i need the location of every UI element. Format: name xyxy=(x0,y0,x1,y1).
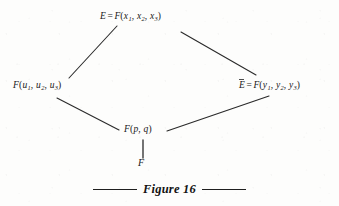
node-left-sub-2: 2 xyxy=(41,84,44,91)
lattice-node-left: F(u1, u2, u3) xyxy=(13,80,62,90)
node-right-sep-2: , xyxy=(284,80,287,90)
lattice-node-middle: F(p, q) xyxy=(124,124,152,134)
figure-16-container: E=F(x1, x2, x3) F(u1, u2, u3) E=F(y1, y2… xyxy=(0,0,339,206)
lattice-node-right: E=F(y1, y2, y3) xyxy=(239,80,300,90)
node-top-paren-close: ) xyxy=(158,11,162,21)
node-right-sub-2: 2 xyxy=(280,84,283,91)
node-right-sub-1: 1 xyxy=(267,84,270,91)
node-right-paren-close: ) xyxy=(297,80,301,90)
node-left-sep-2: , xyxy=(44,80,47,90)
edge-top-to-right xyxy=(181,32,256,75)
node-left-arg-3: u xyxy=(50,80,55,90)
caption-label: Figure 16 xyxy=(143,182,196,197)
node-top-sub-1: 1 xyxy=(128,15,131,22)
node-left-sub-1: 1 xyxy=(27,84,30,91)
edge-left-to-top xyxy=(69,26,117,78)
node-right-field-with-overline: E xyxy=(239,80,245,90)
node-top-sub-2: 2 xyxy=(141,15,144,22)
node-right-sep-1: , xyxy=(271,80,274,90)
edge-left-to-middle xyxy=(57,98,119,130)
node-right-sub-3: 3 xyxy=(293,84,296,91)
node-middle-paren-close: ) xyxy=(148,124,152,134)
node-top-sep-2: , xyxy=(145,11,148,21)
edge-middle-to-right xyxy=(167,96,269,131)
lattice-edge-layer xyxy=(0,0,339,206)
figure-caption: Figure 16 xyxy=(0,182,339,197)
caption-rule-left-icon xyxy=(93,189,137,190)
node-left-sep-1: , xyxy=(31,80,34,90)
caption-rule-right-icon xyxy=(202,189,246,190)
lattice-node-top: E=F(x1, x2, x3) xyxy=(100,11,161,21)
node-middle-sep-1: , xyxy=(138,124,141,134)
lattice-node-bottom: F xyxy=(138,157,144,168)
node-left-paren-close: ) xyxy=(58,80,62,90)
node-top-sub-3: 3 xyxy=(154,15,157,22)
node-left-sub-3: 3 xyxy=(55,84,58,91)
node-bottom-field: F xyxy=(138,157,144,168)
node-top-sep-1: , xyxy=(132,11,135,21)
